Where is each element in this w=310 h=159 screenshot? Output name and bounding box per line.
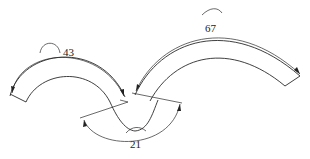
arrowhead-21-right bbox=[177, 104, 181, 111]
right-end-cap bbox=[285, 76, 300, 86]
dimension-arc-67 bbox=[136, 38, 300, 91]
right-arch-inner bbox=[150, 58, 285, 101]
bottom-extension-left bbox=[80, 102, 128, 118]
arrowhead-67-left bbox=[136, 84, 140, 91]
arrowhead-21-left bbox=[83, 120, 87, 127]
arc-length-symbol-67 bbox=[202, 9, 222, 15]
dimension-label-43: 43 bbox=[63, 46, 75, 58]
diagram-canvas: 43 67 21 bbox=[0, 0, 310, 159]
left-arch-outer bbox=[10, 57, 125, 97]
left-end-cap bbox=[10, 94, 26, 102]
dimension-label-21: 21 bbox=[130, 138, 141, 150]
dimension-label-67: 67 bbox=[205, 22, 217, 34]
left-extension bbox=[120, 100, 128, 102]
dimension-arc-21 bbox=[84, 104, 180, 141]
bottom-curve bbox=[135, 100, 158, 131]
arc-length-symbol-43 bbox=[40, 43, 60, 53]
arrowhead-43-right bbox=[120, 89, 124, 96]
